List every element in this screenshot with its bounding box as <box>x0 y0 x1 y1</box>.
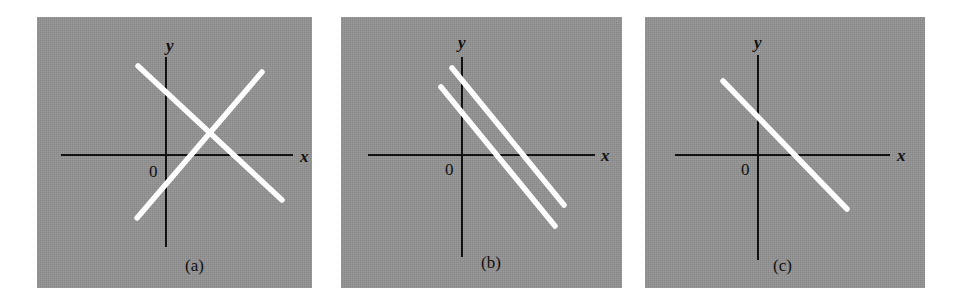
plot-lines <box>37 17 312 288</box>
y-axis-label: y <box>754 34 762 51</box>
panel-caption-c: (c) <box>773 257 792 274</box>
figure-root: xy0(a)xy0(b)xy0(c) <box>0 0 959 305</box>
graph-panel-c: xy0(c) <box>645 17 925 288</box>
graph-line-c-1 <box>723 81 847 209</box>
x-axis-label: x <box>601 147 610 164</box>
graph-panel-a: xy0(a) <box>37 17 312 288</box>
panel-caption-b: (b) <box>481 254 501 271</box>
x-axis-label: x <box>897 147 906 164</box>
graph-line-b-1 <box>452 68 564 205</box>
y-axis-label: y <box>166 37 174 54</box>
graph-line-a-2 <box>137 72 262 218</box>
plot-lines <box>341 17 622 288</box>
panel-caption-a: (a) <box>185 257 204 274</box>
x-axis-label: x <box>300 148 309 165</box>
plot-lines <box>645 17 925 288</box>
origin-label: 0 <box>741 161 750 178</box>
y-axis-label: y <box>458 34 466 51</box>
origin-label: 0 <box>445 161 454 178</box>
origin-label: 0 <box>149 163 158 180</box>
graph-line-b-2 <box>441 87 555 226</box>
graph-panel-b: xy0(b) <box>341 17 622 288</box>
